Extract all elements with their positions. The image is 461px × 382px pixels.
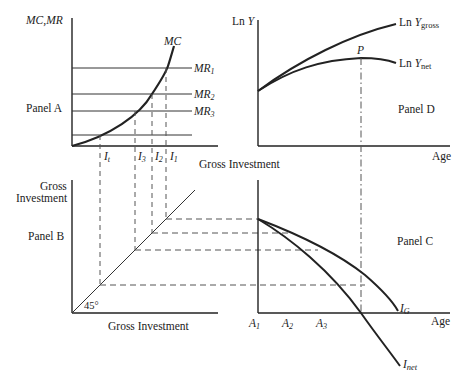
panel-b-x-axis-label: Gross Investment xyxy=(108,321,189,333)
mr2-label: MR2 xyxy=(194,89,215,102)
mr1-label: MR1 xyxy=(194,63,215,76)
i-net-curve xyxy=(258,219,400,366)
diagram-canvas xyxy=(0,0,461,382)
panel-d-x-axis-label: Age xyxy=(432,151,451,163)
peak-p-label: P xyxy=(357,45,364,57)
panel-b xyxy=(72,180,218,313)
mc-curve-label: MC xyxy=(164,36,181,48)
panel-d-y-axis-label: Ln Y xyxy=(232,16,254,28)
age-label-a2: A2 xyxy=(282,318,293,331)
panel-d xyxy=(258,20,450,146)
investment-label-2: I2 xyxy=(155,151,163,164)
panel-a-x-axis-label: Gross Investment xyxy=(199,159,280,171)
panel-b-y-axis-label-line2: Investment xyxy=(16,193,67,205)
panel-b-label: Panel B xyxy=(28,231,64,243)
45-degree-line xyxy=(72,190,195,313)
panel-d-label: Panel D xyxy=(398,104,435,116)
ln-y-gross-label: Ln Ygross xyxy=(399,17,439,30)
horizontal-projection-lines xyxy=(100,219,365,285)
mr3-label: MR3 xyxy=(194,106,215,119)
investment-label-3: I3 xyxy=(138,151,146,164)
i-gross-label: IG xyxy=(400,303,410,316)
mc-curve xyxy=(72,46,174,146)
panel-c-x-axis-label: Age xyxy=(431,316,450,328)
panel-a xyxy=(72,18,218,146)
age-label-a1: A1 xyxy=(249,318,260,331)
panel-a-label: Panel A xyxy=(26,103,62,115)
panel-c xyxy=(258,180,450,366)
angle-45-label: 45° xyxy=(84,301,99,312)
panel-a-y-axis-label: MC,MR xyxy=(26,15,63,27)
i-net-label: Inet xyxy=(403,359,417,372)
ln-y-net-label: Ln Ynet xyxy=(399,58,431,71)
ln-y-gross-curve xyxy=(258,24,396,91)
panel-c-label: Panel C xyxy=(397,236,433,248)
investment-label-1: I1 xyxy=(170,151,178,164)
investment-label-t: It xyxy=(104,151,110,164)
ln-y-net-curve xyxy=(258,58,396,91)
age-label-a3: A3 xyxy=(316,318,327,331)
panel-b-y-axis-label-line1: Gross xyxy=(40,181,67,193)
